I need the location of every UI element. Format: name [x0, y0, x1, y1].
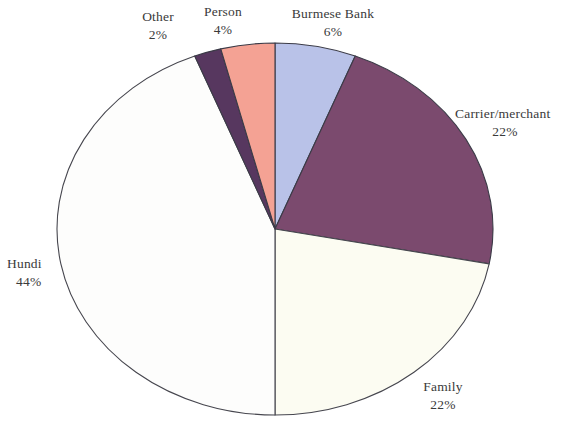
pie-label-hundi: Hundi 44%	[2, 255, 74, 291]
pie-label-person-percent: 4%	[183, 21, 263, 39]
pie-label-burmese-bank: Burmese Bank 6%	[268, 5, 398, 41]
pie-label-family-percent: 22%	[398, 396, 488, 414]
pie-label-family: Family 22%	[398, 378, 488, 414]
pie-label-burmese-bank-name: Burmese Bank	[268, 5, 398, 23]
pie-label-carrier-merchant-percent: 22%	[455, 123, 580, 141]
pie-label-hundi-name: Hundi	[2, 255, 74, 273]
pie-label-hundi-percent: 44%	[2, 273, 74, 291]
pie-label-burmese-bank-percent: 6%	[268, 23, 398, 41]
pie-label-carrier-merchant: Carrier/merchant 22%	[455, 105, 580, 141]
pie-label-person-name: Person	[183, 3, 263, 21]
pie-chart-svg	[0, 0, 580, 424]
pie-chart: Other 2% Person 4% Burmese Bank 6% Carri…	[0, 0, 580, 424]
pie-label-carrier-merchant-name: Carrier/merchant	[455, 105, 580, 123]
pie-slice-group	[57, 43, 493, 415]
pie-label-family-name: Family	[398, 378, 488, 396]
pie-label-person: Person 4%	[183, 3, 263, 39]
